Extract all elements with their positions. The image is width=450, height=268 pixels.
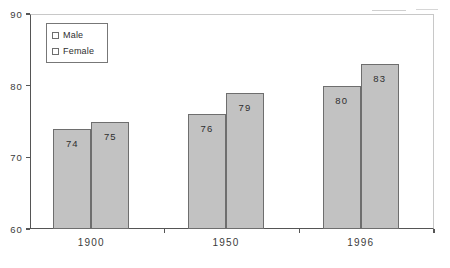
bar (323, 86, 361, 229)
legend-label-male: Male (63, 30, 83, 40)
scan-artifact-line (372, 10, 406, 11)
y-tick-mark (26, 85, 30, 86)
legend-swatch-male (52, 32, 59, 39)
bar-value-label: 74 (66, 138, 79, 149)
y-tick-label: 90 (0, 9, 23, 20)
x-tick-mark (433, 229, 434, 233)
x-tick-mark (164, 229, 165, 233)
bar-value-label: 75 (104, 131, 117, 142)
bar-value-label: 76 (201, 123, 214, 134)
chart-legend: Male Female (46, 23, 108, 63)
y-tick-mark (26, 157, 30, 158)
x-tick-mark (299, 229, 300, 233)
bar-value-label: 80 (335, 95, 348, 106)
y-tick-mark (26, 228, 30, 229)
bar-value-label: 79 (239, 102, 252, 113)
bar-chart: 60708090 747576798083 190019501996 Male … (0, 0, 450, 268)
y-tick-mark (26, 13, 30, 14)
x-tick-label: 1950 (212, 237, 239, 248)
y-tick-label: 80 (0, 80, 23, 91)
legend-item-female: Female (52, 46, 94, 56)
y-tick-label: 60 (0, 224, 23, 235)
legend-swatch-female (52, 48, 59, 55)
bar (361, 64, 399, 229)
x-tick-label: 1996 (347, 237, 374, 248)
legend-label-female: Female (63, 46, 94, 56)
bar-value-label: 83 (373, 73, 386, 84)
x-tick-label: 1900 (78, 237, 105, 248)
scan-artifact-line (416, 9, 438, 10)
y-tick-label: 70 (0, 152, 23, 163)
legend-item-male: Male (52, 30, 83, 40)
bar (226, 93, 264, 229)
